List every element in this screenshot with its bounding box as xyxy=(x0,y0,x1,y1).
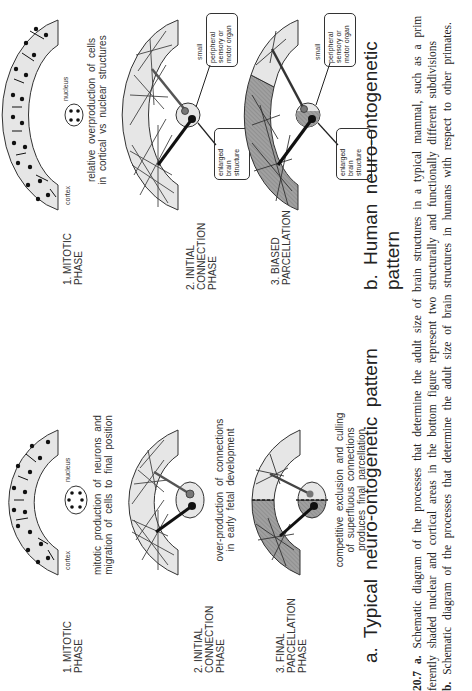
phase-label-line: 1. MITOTIC xyxy=(62,621,73,673)
phase-label-line: PARCELLATION xyxy=(286,598,297,673)
phase-label-line: PHASE xyxy=(215,606,226,673)
phase-label-b1: 1. MITOTIC PHASE xyxy=(62,233,84,285)
phase-label-line: PARCELLATION xyxy=(281,210,292,285)
caption-text: Schematic diagram of the processes that … xyxy=(441,22,453,682)
phase-label-line: 1. MITOTIC xyxy=(62,233,73,285)
box-line: motor organ xyxy=(343,17,351,63)
desc-line: competitive exclusion and culling xyxy=(334,400,345,580)
mitotic-diagram-b: cortex nucleus xyxy=(8,15,88,215)
phase-desc-a1: mitotic production of neurons and migrat… xyxy=(92,405,114,585)
desc-line: in early fetal development xyxy=(225,405,236,575)
figure-caption: 20.7 a. Schematic diagram of the process… xyxy=(410,0,472,691)
caption-line-1: 20.7 a. Schematic diagram of the process… xyxy=(410,16,425,691)
caption-line-2: ferently shaded nuclear and cortical are… xyxy=(425,41,440,691)
box-line: structure xyxy=(233,132,241,176)
box-line: brain xyxy=(225,132,233,176)
caption-figure-number: 20.7 a. xyxy=(411,655,423,691)
desc-line: in cortical vs nuclear structures xyxy=(97,15,108,205)
enlarged-brain-structure-box-b2: enlarged brain structure xyxy=(214,128,250,180)
box-line: peripheral xyxy=(327,17,335,63)
phase-desc-a2: over-production of connections in early … xyxy=(214,405,236,575)
nucleus-label: nucleus xyxy=(64,457,71,482)
box-line: peripheral xyxy=(209,17,217,63)
phase-label-line: 3. FINAL xyxy=(275,598,286,673)
desc-line: migration of cells to final position xyxy=(103,405,114,585)
phase-label-line: 3. BIASED xyxy=(270,210,281,285)
small-label-b2: small xyxy=(196,44,203,60)
desc-line: of superfluous connections xyxy=(345,400,356,580)
desc-line: relative overproduction of cells xyxy=(86,15,97,205)
box-line: sensory or xyxy=(217,17,225,63)
phase-label-a1: 1. MITOTIC PHASE xyxy=(62,621,84,673)
desc-line: mitotic production of neurons and xyxy=(92,405,103,585)
box-line: sensory or xyxy=(335,17,343,63)
caption-text: ferently shaded nuclear and cortical are… xyxy=(426,41,438,691)
phase-label-b2: 2. INITIAL CONNECTION PHASE xyxy=(185,223,218,290)
peripheral-organ-box-b2: peripheral sensory or motor organ xyxy=(206,13,238,67)
phase-label-line: PHASE xyxy=(207,223,218,290)
cortex-label: cortex xyxy=(64,550,71,570)
phase-label-line: 2. INITIAL xyxy=(193,606,204,673)
box-line: motor organ xyxy=(225,17,233,63)
caption-panel-label: b. xyxy=(441,682,453,691)
mitotic-diagram-a: cortex nucleus xyxy=(8,420,88,580)
caption-line-3: b. Schematic diagram of the processes th… xyxy=(440,22,455,691)
phase-label-line: CONNECTION xyxy=(204,606,215,673)
desc-line: over-production of connections xyxy=(214,405,225,575)
small-label-b3: small xyxy=(314,44,321,60)
phase-label-line: CONNECTION xyxy=(196,223,207,290)
cortex-label: cortex xyxy=(64,185,71,205)
phase-label-b3: 3. BIASED PARCELLATION xyxy=(270,210,292,285)
caption-text: Schematic diagram of the processes that … xyxy=(411,16,423,656)
initial-connection-diagram-a xyxy=(128,420,208,580)
box-line: enlarged xyxy=(339,132,347,176)
nucleus-label: nucleus xyxy=(62,76,69,101)
peripheral-organ-box-b3: peripheral sensory or motor organ xyxy=(324,13,356,67)
box-line: enlarged xyxy=(217,132,225,176)
panel-b-title: b. Human neuro-ontogenetic pattern xyxy=(360,0,404,290)
phase-label-a2: 2. INITIAL CONNECTION PHASE xyxy=(193,606,226,673)
box-line: brain xyxy=(347,132,355,176)
phase-label-line: PHASE xyxy=(73,621,84,673)
phase-label-a3: 3. FINAL PARCELLATION PHASE xyxy=(275,598,308,673)
panel-a-title: a. Typical neuro-ontogenetic pattern xyxy=(360,348,382,663)
final-parcellation-diagram-a xyxy=(250,420,330,580)
phase-label-line: PHASE xyxy=(297,598,308,673)
phase-desc-b1: relative overproduction of cells in cort… xyxy=(86,15,108,205)
phase-label-line: PHASE xyxy=(73,233,84,285)
phase-label-line: 2. INITIAL xyxy=(185,223,196,290)
